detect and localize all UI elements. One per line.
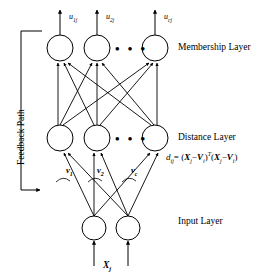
formula-equals: = [174, 152, 179, 162]
formula-transpose: T [208, 151, 211, 157]
input-node-2 [116, 216, 140, 240]
weight-subscript-1: 1 [70, 171, 73, 177]
membership-node-2 [84, 35, 110, 61]
formula-v2-sub: i [233, 158, 235, 164]
input-to-distance-edges [64, 153, 158, 216]
output-subscript-1: 1j [73, 17, 77, 23]
membership-output-label-2: u2j [106, 13, 114, 23]
formula-v1-sub: i [203, 158, 205, 164]
distance-layer-label: Distance Layer [178, 133, 236, 143]
input-layer-label: Input Layer [178, 217, 223, 227]
weight-subscript-c: c [135, 171, 138, 177]
weight-vector-label-2: v2 [97, 166, 104, 177]
membership-output-label-1: u1j [69, 13, 77, 23]
weight-vector-label-1: v1 [66, 166, 73, 177]
weight-subscript-2: 2 [101, 171, 104, 177]
distance-node-2 [84, 125, 110, 151]
membership-output-label-c: ucj [164, 13, 172, 23]
distance-to-membership-edges [58, 63, 157, 125]
distance-node-1 [47, 125, 73, 151]
weight-vector-label-c: vc [131, 166, 137, 177]
distance-layer-ellipsis: • • • [115, 132, 148, 145]
membership-node-1 [47, 35, 73, 61]
membership-layer-nodes [47, 35, 168, 61]
membership-layer-label: Membership Layer [178, 43, 251, 53]
weight-tick-marks [56, 178, 136, 182]
output-subscript-c: cj [168, 17, 172, 23]
input-signal-subscript: j [109, 265, 111, 272]
feedback-path-label: Feedback Path [17, 109, 27, 165]
input-signal-label: Xj [103, 261, 111, 272]
figure-container: • • • • • • u1j u2j ucj Membership Layer… [0, 0, 268, 279]
input-node-1 [82, 216, 106, 240]
input-layer-nodes [82, 216, 140, 240]
output-subscript-2: 2j [110, 17, 114, 23]
distance-layer-nodes [47, 125, 168, 151]
membership-layer-ellipsis: • • • [115, 42, 148, 55]
distance-formula: dij= (Xj−Vi)T(Xj−Vi) [166, 151, 237, 164]
